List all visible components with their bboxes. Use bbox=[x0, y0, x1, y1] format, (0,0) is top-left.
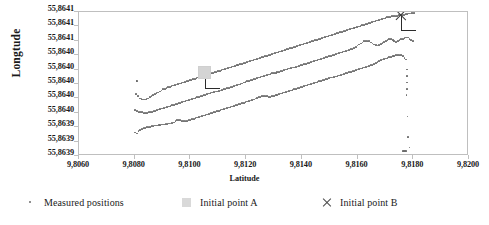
data-point bbox=[407, 116, 409, 118]
data-point bbox=[136, 133, 138, 135]
y-axis-tick-label: 55,8640 bbox=[22, 91, 74, 99]
x-axis-tick bbox=[245, 155, 246, 159]
x-axis-tick-label: 9,8140 bbox=[273, 160, 329, 169]
y-axis-tick bbox=[74, 69, 78, 70]
y-axis-tick-label: 55,8640 bbox=[22, 48, 74, 56]
legend-x-icon bbox=[318, 195, 336, 209]
legend-dot-icon bbox=[22, 195, 40, 209]
data-point bbox=[406, 69, 408, 71]
y-axis-tick-label: 55,8639 bbox=[22, 149, 74, 157]
x-axis-tick-label: 9,8080 bbox=[106, 160, 162, 169]
y-axis-tick-label: 55,8639 bbox=[22, 135, 74, 143]
x-axis-tick bbox=[78, 155, 79, 159]
y-axis-tick bbox=[74, 40, 78, 41]
legend-item[interactable]: Initial point B bbox=[318, 193, 398, 211]
data-point bbox=[405, 150, 407, 152]
legend-label: Initial point B bbox=[340, 197, 398, 208]
data-point bbox=[409, 147, 411, 149]
x-axis-tick-label: 9,8120 bbox=[217, 160, 273, 169]
legend-label: Measured positions bbox=[44, 197, 124, 208]
y-axis-tick-label: 55,8641 bbox=[22, 5, 74, 13]
legend-item[interactable]: Measured positions bbox=[22, 193, 124, 211]
x-marker-icon bbox=[321, 197, 332, 208]
y-axis-tick bbox=[74, 126, 78, 127]
y-axis-tick bbox=[74, 83, 78, 84]
y-axis-tick bbox=[74, 25, 78, 26]
legend-item[interactable]: Initial point A bbox=[178, 193, 258, 211]
initial-point-b-marker bbox=[394, 11, 408, 22]
x-axis-tick bbox=[468, 155, 469, 159]
y-axis-tick-label: 55,8640 bbox=[22, 63, 74, 71]
x-axis-tick bbox=[412, 155, 413, 159]
x-axis-tick bbox=[134, 155, 135, 159]
x-axis-tick-label: 9,8160 bbox=[329, 160, 385, 169]
y-axis-tick-label: 55,8641 bbox=[22, 34, 74, 42]
data-point bbox=[406, 82, 408, 84]
data-point bbox=[413, 12, 415, 14]
x-axis-title: Latitude bbox=[0, 174, 489, 183]
y-axis-tick bbox=[74, 112, 78, 113]
y-axis-tick bbox=[74, 97, 78, 98]
square-marker-icon bbox=[182, 198, 191, 207]
x-axis-tick-label: 9,8180 bbox=[384, 160, 440, 169]
y-axis-tick bbox=[74, 11, 78, 12]
y-axis-title: Longtude bbox=[10, 6, 22, 100]
y-axis-tick-label: 55,8639 bbox=[22, 120, 74, 128]
dot-marker-icon bbox=[29, 201, 31, 203]
y-axis-tick bbox=[74, 141, 78, 142]
data-point bbox=[406, 88, 408, 90]
data-point bbox=[412, 40, 414, 42]
legend-label: Initial point A bbox=[200, 197, 258, 208]
x-axis-tick bbox=[301, 155, 302, 159]
data-point bbox=[136, 80, 138, 82]
data-point bbox=[405, 59, 407, 61]
data-point bbox=[406, 75, 408, 77]
y-axis-tick-label: 55,8641 bbox=[22, 19, 74, 27]
plot-area bbox=[78, 11, 468, 155]
y-axis-tick-label: 55,8640 bbox=[22, 106, 74, 114]
chart-legend: Measured positionsInitial point AInitial… bbox=[0, 193, 489, 215]
data-point bbox=[137, 95, 139, 97]
y-axis-tick-labels: 55,864155,864155,864155,864055,864055,86… bbox=[22, 6, 74, 159]
y-axis-tick bbox=[74, 54, 78, 55]
legend-square-icon bbox=[178, 195, 196, 209]
y-axis-tick-label: 55,8640 bbox=[22, 77, 74, 85]
scatter-chart: Longtude 55,864155,864155,864155,864055,… bbox=[0, 0, 489, 225]
data-point bbox=[355, 46, 357, 48]
initial-point-a-marker bbox=[198, 66, 211, 79]
x-axis-tick-label: 9,8200 bbox=[440, 160, 489, 169]
x-axis-tick-label: 9,8100 bbox=[161, 160, 217, 169]
x-axis-tick-label: 9,8060 bbox=[50, 160, 106, 169]
x-axis-tick-labels: 9,80609,80809,81009,81209,81409,81609,81… bbox=[0, 160, 489, 172]
data-point bbox=[407, 136, 409, 138]
x-axis-tick bbox=[189, 155, 190, 159]
data-point bbox=[406, 94, 408, 96]
x-axis-tick bbox=[357, 155, 358, 159]
